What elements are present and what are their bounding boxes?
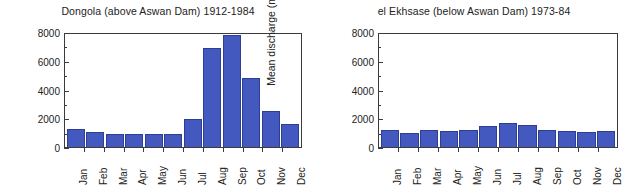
x-tick-label-mar: Mar <box>432 168 443 185</box>
x-tick <box>104 148 105 152</box>
x-tick-label-aug: Aug <box>532 167 543 185</box>
x-tick <box>84 148 85 152</box>
x-tick-label-jan: Jan <box>392 169 403 185</box>
y-tick-label: 6000 <box>344 56 374 67</box>
y-tick-label: 4000 <box>344 85 374 96</box>
x-tick <box>243 148 244 152</box>
bar-sep <box>538 130 556 147</box>
y-tick <box>378 148 383 149</box>
x-tick <box>398 148 399 152</box>
x-tick <box>558 148 559 152</box>
chart-panel-el-ekhsase: el Ekhsase (below Aswan Dam) 1973-84 Mea… <box>316 0 632 194</box>
x-tick-label-feb: Feb <box>412 168 423 185</box>
bar-aug <box>203 48 221 147</box>
bar-oct <box>558 131 576 147</box>
x-tick-label-sep: Sep <box>552 167 563 185</box>
y-tick-label: 6000 <box>30 56 60 67</box>
x-tick <box>578 148 579 152</box>
bar-nov <box>577 132 595 147</box>
x-tick-label-oct: Oct <box>256 169 267 185</box>
bar-aug <box>518 125 536 147</box>
bar-jan <box>381 130 399 147</box>
y-tick-label: 4000 <box>30 85 60 96</box>
x-tick <box>183 148 184 152</box>
y-axis-label-text: Mean discharge (m <box>265 0 277 86</box>
bar-may <box>145 134 163 147</box>
bar-jul <box>499 123 517 147</box>
chart-title: el Ekhsase (below Aswan Dam) 1973-84 <box>316 5 632 17</box>
y-tick-label: 0 <box>30 143 60 154</box>
x-tick-label-apr: Apr <box>452 169 463 185</box>
x-tick-label-feb: Feb <box>98 168 109 185</box>
y-tick-label: 8000 <box>30 28 60 39</box>
x-tick-label-nov: Nov <box>592 167 603 185</box>
bar-apr <box>440 131 458 147</box>
y-tick <box>64 148 69 149</box>
x-tick <box>223 148 224 152</box>
x-tick-label-jan: Jan <box>78 169 89 185</box>
x-tick <box>478 148 479 152</box>
figure-root: Dongola (above Aswan Dam) 1912-1984 Mean… <box>0 0 632 194</box>
bar-jul <box>184 119 202 147</box>
plot-area <box>378 33 618 148</box>
bar-jan <box>67 129 85 147</box>
bar-jun <box>164 134 182 147</box>
bar-apr <box>125 134 143 147</box>
x-tick-label-aug: Aug <box>217 167 228 185</box>
y-axis-label: Mean discharge (m3/s) <box>263 0 277 95</box>
bar-dec <box>281 124 299 147</box>
y-tick-label: 2000 <box>30 114 60 125</box>
x-tick-label-sep: Sep <box>237 167 248 185</box>
x-tick-label-jul: Jul <box>197 172 208 185</box>
x-tick <box>163 148 164 152</box>
x-tick <box>438 148 439 152</box>
x-tick <box>518 148 519 152</box>
bar-feb <box>400 133 418 147</box>
x-tick-label-dec: Dec <box>296 167 307 185</box>
x-tick <box>538 148 539 152</box>
x-tick-label-jul: Jul <box>512 172 523 185</box>
x-tick <box>598 148 599 152</box>
x-tick-label-mar: Mar <box>118 168 129 185</box>
x-tick-label-may: May <box>157 166 168 185</box>
x-tick-label-apr: Apr <box>137 169 148 185</box>
y-tick-label: 2000 <box>344 114 374 125</box>
x-tick <box>498 148 499 152</box>
bar-may <box>459 130 477 147</box>
x-tick <box>418 148 419 152</box>
y-tick-label: 8000 <box>344 28 374 39</box>
bar-oct <box>242 78 260 147</box>
bar-mar <box>106 134 124 147</box>
bar-sep <box>223 35 241 147</box>
x-tick <box>124 148 125 152</box>
bar-nov <box>262 111 280 147</box>
x-tick <box>282 148 283 152</box>
x-tick-label-nov: Nov <box>276 167 287 185</box>
bar-mar <box>420 130 438 147</box>
bar-series <box>379 34 617 147</box>
x-tick <box>143 148 144 152</box>
x-tick-label-may: May <box>472 166 483 185</box>
x-tick-label-jun: Jun <box>177 169 188 185</box>
x-tick <box>262 148 263 152</box>
x-tick <box>458 148 459 152</box>
bar-feb <box>86 132 104 147</box>
y-tick-label: 0 <box>344 143 374 154</box>
x-tick-label-jun: Jun <box>492 169 503 185</box>
x-tick-label-dec: Dec <box>612 167 623 185</box>
x-tick <box>203 148 204 152</box>
bar-dec <box>597 131 615 147</box>
x-tick-label-oct: Oct <box>572 169 583 185</box>
bar-jun <box>479 126 497 147</box>
